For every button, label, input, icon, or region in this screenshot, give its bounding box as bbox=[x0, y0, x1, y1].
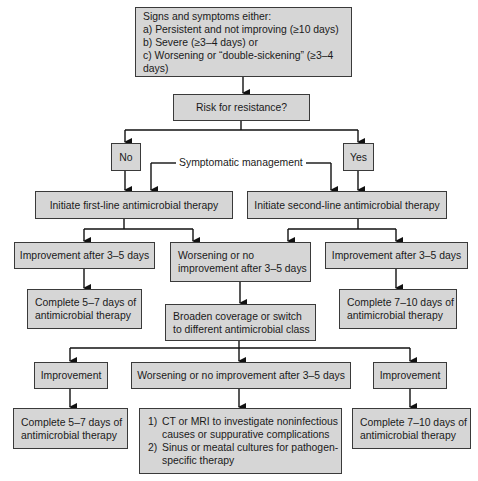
broaden-line-1: Broaden coverage or switch bbox=[173, 310, 310, 323]
bottom-right-improvement-label: Improvement bbox=[380, 369, 441, 382]
broaden-line-2: to different antimicrobial class bbox=[173, 323, 310, 336]
first-line-therapy-box: Initiate first-line antimicrobial therap… bbox=[35, 191, 233, 219]
final-step-1-line-1: CT or MRI to investigate noninfectious bbox=[162, 415, 338, 428]
mid-worsening-line-2: improvement after 3–5 days bbox=[178, 262, 307, 275]
final-step-2-number: 2) bbox=[148, 441, 162, 467]
final-step-2-line-2: specific therapy bbox=[162, 454, 338, 467]
right-complete-line-1: Complete 7–10 days of bbox=[347, 296, 454, 309]
final-step-1-number: 1) bbox=[148, 415, 162, 441]
yes-box: Yes bbox=[343, 143, 374, 171]
risk-decision-label: Risk for resistance? bbox=[196, 101, 287, 114]
final-step-2: 2) Sinus or meatal cultures for pathogen… bbox=[148, 441, 338, 467]
start-title: Signs and symptoms either: bbox=[143, 10, 351, 23]
final-step-1: 1) CT or MRI to investigate noninfectiou… bbox=[148, 415, 338, 441]
bottom-left-improvement-box: Improvement bbox=[34, 362, 108, 389]
bottom-left-complete-line-1: Complete 5–7 days of bbox=[21, 416, 122, 429]
symptomatic-management-label: Symptomatic management bbox=[176, 156, 306, 169]
bottom-right-complete-box: Complete 7–10 days of antimicrobial ther… bbox=[352, 408, 471, 449]
risk-decision-box: Risk for resistance? bbox=[173, 94, 310, 121]
left-improvement-box: Improvement after 3–5 days bbox=[14, 242, 155, 269]
final-steps-box: 1) CT or MRI to investigate noninfectiou… bbox=[139, 408, 342, 474]
left-complete-line-2: antimicrobial therapy bbox=[35, 309, 136, 322]
mid-worsening-line-1: Worsening or no bbox=[178, 249, 307, 262]
bottom-mid-worsening-label: Worsening or no improvement after 3–5 da… bbox=[137, 369, 345, 382]
left-complete-line-1: Complete 5–7 days of bbox=[35, 296, 136, 309]
criterion-a: a) Persistent and not improving (≥10 day… bbox=[143, 23, 351, 36]
first-line-label: Initiate first-line antimicrobial therap… bbox=[50, 199, 219, 212]
final-step-2-line-1: Sinus or meatal cultures for pathogen- bbox=[162, 441, 338, 454]
final-step-1-line-2: causes or suppurative complications bbox=[162, 428, 338, 441]
bottom-mid-worsening-box: Worsening or no improvement after 3–5 da… bbox=[131, 362, 351, 389]
right-complete-box: Complete 7–10 days of antimicrobial ther… bbox=[339, 289, 457, 329]
yes-label: Yes bbox=[350, 151, 367, 164]
right-improvement-box: Improvement after 3–5 days bbox=[325, 242, 468, 269]
no-label: No bbox=[119, 151, 132, 164]
second-line-therapy-box: Initiate second-line antimicrobial thera… bbox=[247, 191, 447, 219]
criterion-c: c) Worsening or “double-sickening” (≥3–4… bbox=[143, 49, 351, 75]
bottom-right-improvement-box: Improvement bbox=[373, 362, 447, 389]
broaden-coverage-box: Broaden coverage or switch to different … bbox=[165, 304, 316, 341]
right-complete-line-2: antimicrobial therapy bbox=[347, 309, 454, 322]
left-complete-box: Complete 5–7 days of antimicrobial thera… bbox=[27, 289, 142, 329]
bottom-right-complete-line-2: antimicrobial therapy bbox=[360, 429, 467, 442]
bottom-left-improvement-label: Improvement bbox=[41, 369, 102, 382]
bottom-left-complete-box: Complete 5–7 days of antimicrobial thera… bbox=[13, 408, 128, 449]
left-improvement-label: Improvement after 3–5 days bbox=[20, 249, 149, 262]
mid-worsening-box: Worsening or no improvement after 3–5 da… bbox=[170, 242, 311, 282]
second-line-label: Initiate second-line antimicrobial thera… bbox=[254, 199, 439, 212]
bottom-right-complete-line-1: Complete 7–10 days of bbox=[360, 416, 467, 429]
no-box: No bbox=[111, 143, 141, 171]
bottom-left-complete-line-2: antimicrobial therapy bbox=[21, 429, 122, 442]
right-improvement-label: Improvement after 3–5 days bbox=[332, 249, 461, 262]
start-criteria-box: Signs and symptoms either: a) Persistent… bbox=[135, 7, 352, 77]
criterion-b: b) Severe (≥3–4 days) or bbox=[143, 36, 351, 49]
